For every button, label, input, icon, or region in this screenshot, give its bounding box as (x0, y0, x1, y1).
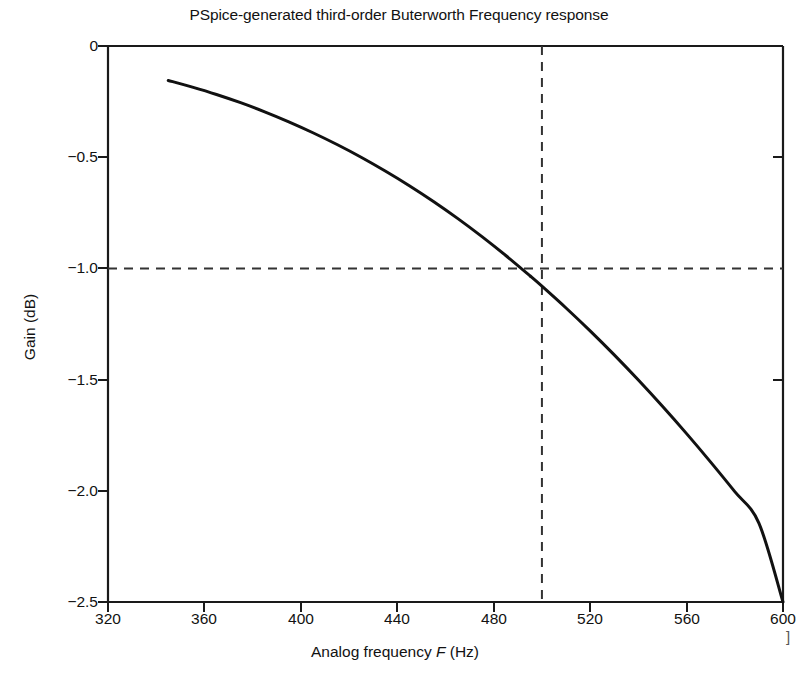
x-tick-label-560: 560 (674, 610, 700, 628)
x-axis-label-pre: Analog frequency (311, 643, 436, 660)
x-tick-label-320: 320 (95, 610, 121, 628)
x-tick-label-440: 440 (384, 610, 410, 628)
response-curve (168, 80, 783, 602)
y-tick-label-n2p0: −2.0 (38, 482, 98, 500)
x-tick-label-520: 520 (577, 610, 603, 628)
x-axis-label-post: (Hz) (445, 643, 479, 660)
y-tick-label-n1p5: −1.5 (38, 371, 98, 389)
y-tick-label-n1p0: −1.0 (38, 259, 98, 277)
x-axis-label-symbol: F (436, 643, 445, 660)
page-edge-artifact: ] (786, 628, 790, 645)
x-tick-label-480: 480 (481, 610, 507, 628)
axis-frame (108, 46, 783, 602)
x-axis-label: Analog frequency F (Hz) (0, 643, 790, 661)
x-tick-label-360: 360 (191, 610, 217, 628)
y-tick-label-n0p5: −0.5 (38, 148, 98, 166)
chart-figure: PSpice-generated third-order Buterworth … (0, 0, 798, 680)
cutoff-crosshair (108, 46, 783, 602)
x-tick-label-400: 400 (288, 610, 314, 628)
x-tick-label-600: 600 (770, 610, 796, 628)
y-tick-label-n2p5: −2.5 (38, 593, 98, 611)
y-tick-marks (98, 46, 108, 602)
plot-area (0, 0, 798, 680)
y-tick-label-0: 0 (38, 37, 98, 55)
y-axis-label: Gain (dB) (21, 267, 39, 387)
